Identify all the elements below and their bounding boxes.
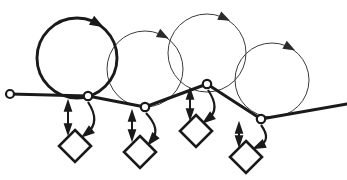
transition-1-curved-arrow [81, 102, 95, 138]
transition-2-head-up [128, 109, 137, 122]
transition-4-curved-arrow [252, 125, 267, 149]
loop-group-thick [37, 18, 117, 98]
diamond-group [59, 115, 262, 173]
transition-2-double-arrow [128, 109, 137, 142]
loop-1-arrowhead [89, 16, 104, 27]
transition-1-double-arrow [64, 99, 73, 136]
loop-4-arrowhead [282, 41, 295, 51]
loop-1-circle [37, 18, 117, 98]
transition-3-curved-arrow [202, 90, 216, 124]
junction-node-1[interactable] [84, 92, 92, 100]
loop-4-circle [235, 43, 309, 117]
transition-4-head-up [235, 121, 244, 134]
backbone-path [10, 84, 347, 119]
loop-group-thin [107, 14, 309, 117]
loop-2-arrowhead [156, 29, 169, 39]
diagram-canvas [0, 0, 347, 180]
left-terminal-node[interactable] [6, 90, 14, 98]
transition-1-head-up [64, 99, 73, 112]
junction-node-4[interactable] [257, 115, 265, 123]
transition-2-curved-arrow [146, 113, 160, 146]
diagram-svg [0, 0, 347, 180]
junction-node-2[interactable] [141, 103, 149, 111]
junction-node-3[interactable] [203, 80, 211, 88]
loop-3-arrowhead [217, 11, 230, 20]
